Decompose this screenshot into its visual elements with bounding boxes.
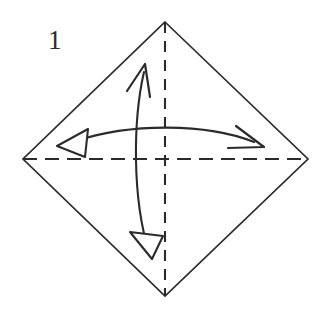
step-number-label: 1 (48, 27, 62, 54)
origami-step-figure: 1 (0, 0, 329, 309)
